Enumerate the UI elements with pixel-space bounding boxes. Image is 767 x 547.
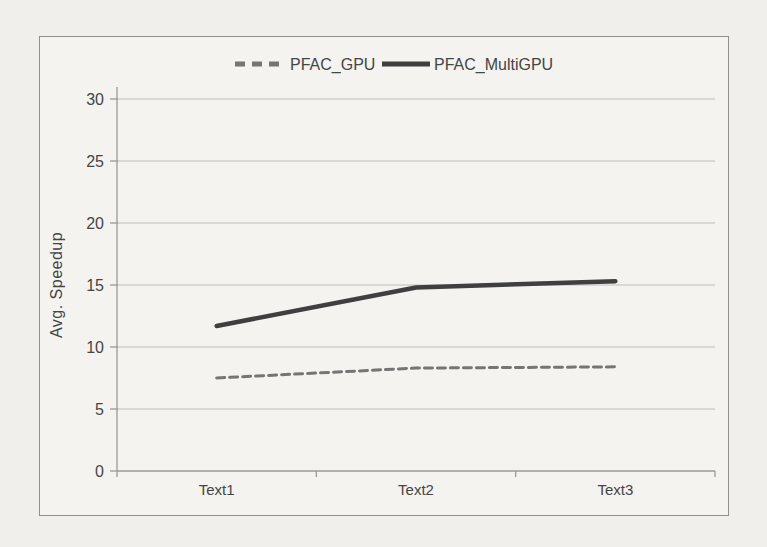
- series-line-pfac_gpu: [217, 367, 616, 378]
- gridlines-group: [117, 99, 715, 409]
- y-tick-label: 5: [95, 401, 104, 418]
- series-group: [217, 281, 616, 378]
- legend-label-pfac-gpu: PFAC_GPU: [290, 56, 375, 74]
- x-category-label: Text2: [398, 481, 434, 498]
- legend-label-pfac-multigpu: PFAC_MultiGPU: [434, 56, 553, 74]
- axes-group: [110, 87, 715, 477]
- x-category-label: Text1: [199, 481, 235, 498]
- series-line-pfac_multigpu: [217, 281, 616, 326]
- x-category-label: Text3: [597, 481, 633, 498]
- y-tick-label: 30: [86, 91, 104, 108]
- page: { "page": { "background": "#f0efec" }, "…: [0, 0, 767, 547]
- y-tick-label: 0: [95, 463, 104, 480]
- y-axis-title: Avg. Speedup: [48, 232, 65, 338]
- y-tick-label: 15: [86, 277, 104, 294]
- y-tick-label: 20: [86, 215, 104, 232]
- chart-svg: 051015202530Text1Text2Text3 Avg. Speedup…: [40, 37, 730, 517]
- chart-panel: 051015202530Text1Text2Text3 Avg. Speedup…: [39, 36, 729, 516]
- y-tick-label: 25: [86, 153, 104, 170]
- y-tick-label: 10: [86, 339, 104, 356]
- chart-legend: PFAC_GPU PFAC_MultiGPU: [235, 56, 553, 74]
- labels-group: 051015202530Text1Text2Text3: [86, 91, 633, 498]
